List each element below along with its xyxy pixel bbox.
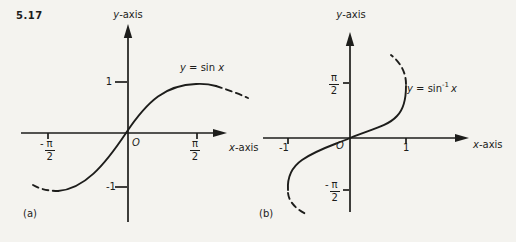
panel-a-caption: (a) [23,208,37,219]
panel-b-y-axis-label: y-axis [321,9,381,20]
panel-a-curve-label: y = sin x [180,62,224,73]
figure-5-17: 5.17 y-axis y = sin x 1 -1 -π2 π2 O x-ax… [0,0,516,242]
panel-b-x-axis-label: x-axis [473,139,503,150]
panel-a-ytick-label-1: 1 [98,76,112,87]
panel-a-xtick-label-minus-pi-2: -π2 [40,139,55,161]
panel-b-xtick-label-minus-1: -1 [279,142,289,153]
panel-b-y-axis-arrowhead [346,32,354,46]
panel-a-ytick-label-minus-1: -1 [106,181,116,192]
panel-b-xtick-label-1: 1 [403,142,409,153]
panel-b-x-axis-arrowhead [455,134,469,142]
panel-a-x-axis-label: x-axis [229,142,259,153]
panel-b-caption: (b) [259,208,273,219]
panel-b-origin-label: O [336,140,344,151]
plot-canvas [0,0,516,242]
figure-number: 5.17 [16,10,43,21]
panel-a-origin-label: O [132,137,140,148]
panel-b-arcsine-curve-dashed-top [391,55,406,84]
panel-b-arcsine-curve-dashed-bottom [288,193,306,214]
panel-a-xtick-label-pi-2: π2 [190,139,200,161]
panel-b-curve-label: y = sin-1x [407,80,457,94]
panel-a-y-axis-label: y-axis [98,9,158,20]
panel-a-y-axis-arrowhead [124,24,132,38]
panel-b-ytick-label-minus-pi-2: -π2 [325,180,340,202]
panel-a-x-axis-arrowhead [213,129,227,137]
panel-a-sine-curve-dashed-right [216,86,248,98]
panel-a-sine-curve-dashed-left [33,185,58,191]
panel-b-ytick-label-pi-2: π2 [329,73,339,95]
